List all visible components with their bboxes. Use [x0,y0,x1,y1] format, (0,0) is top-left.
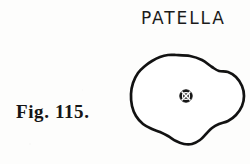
figure-plate: PATELLA Fig. 115. [0,0,250,164]
patella-outline-drawing [124,44,250,156]
circled-cross-marker [180,90,192,102]
figure-caption: Fig. 115. [16,101,90,123]
page-title: PATELLA [141,7,250,29]
